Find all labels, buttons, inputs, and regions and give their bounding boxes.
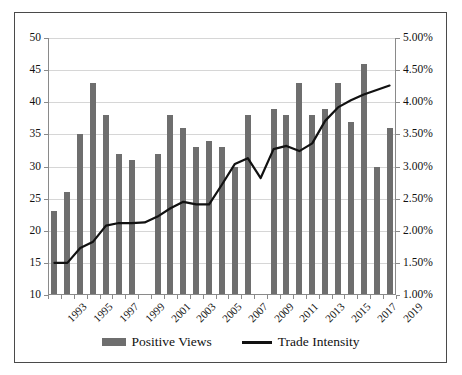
bar bbox=[283, 115, 289, 295]
y-tick-label: 10 bbox=[30, 289, 42, 301]
bar bbox=[90, 83, 96, 295]
y-tick bbox=[44, 102, 48, 103]
bar bbox=[322, 109, 328, 295]
x-tick bbox=[306, 295, 307, 299]
y2-tick-label: 4.00% bbox=[403, 97, 433, 109]
x-tick bbox=[112, 295, 113, 299]
x-tick bbox=[216, 295, 217, 299]
legend-label-positive-views: Positive Views bbox=[132, 334, 212, 350]
y-axis-left bbox=[48, 38, 49, 295]
y2-tick-label: 5.00% bbox=[403, 32, 433, 44]
bar bbox=[335, 83, 341, 295]
x-tick-label: 2003 bbox=[195, 301, 218, 324]
y2-tick-label: 4.50% bbox=[403, 64, 433, 76]
x-tick-label: 2019 bbox=[401, 301, 424, 324]
x-tick-label: 2001 bbox=[169, 301, 192, 324]
x-tick bbox=[190, 295, 191, 299]
x-tick bbox=[241, 295, 242, 299]
y-tick-label: 35 bbox=[30, 129, 42, 141]
bar bbox=[245, 115, 251, 295]
x-tick bbox=[332, 295, 333, 299]
y2-tick bbox=[396, 263, 400, 264]
bar bbox=[374, 167, 380, 296]
x-tick-label: 2007 bbox=[246, 301, 269, 324]
y-tick bbox=[44, 199, 48, 200]
y-tick-label: 50 bbox=[30, 32, 42, 44]
bar bbox=[206, 141, 212, 295]
y2-tick bbox=[396, 167, 400, 168]
legend-label-trade-intensity: Trade Intensity bbox=[278, 334, 360, 350]
bar bbox=[77, 134, 83, 295]
y2-tick bbox=[396, 102, 400, 103]
x-tick-label: 2013 bbox=[324, 301, 347, 324]
y2-tick-label: 1.50% bbox=[403, 257, 433, 269]
y2-tick-label: 1.00% bbox=[403, 289, 433, 301]
y2-tick bbox=[396, 70, 400, 71]
bar bbox=[361, 64, 367, 295]
x-tick bbox=[61, 295, 62, 299]
y2-tick bbox=[396, 199, 400, 200]
bar bbox=[348, 122, 354, 295]
y-tick-label: 15 bbox=[30, 257, 42, 269]
x-tick bbox=[370, 295, 371, 299]
bar bbox=[180, 128, 186, 295]
y-tick-label: 25 bbox=[30, 193, 42, 205]
legend-item-trade-intensity: Trade Intensity bbox=[242, 334, 360, 350]
chart-frame: 101520253035404550 1.00%1.50%2.00%2.50%3… bbox=[14, 12, 447, 363]
y2-tick-label: 2.00% bbox=[403, 225, 433, 237]
bar bbox=[193, 147, 199, 295]
y2-tick-label: 3.00% bbox=[403, 161, 433, 173]
bar-swatch-icon bbox=[102, 338, 126, 346]
x-tick bbox=[100, 295, 101, 299]
x-tick bbox=[383, 295, 384, 299]
bar bbox=[103, 115, 109, 295]
bar bbox=[296, 83, 302, 295]
y2-tick-label: 2.50% bbox=[403, 193, 433, 205]
bar bbox=[387, 128, 393, 295]
chart-legend: Positive Views Trade Intensity bbox=[15, 334, 446, 350]
y2-tick-label: 3.50% bbox=[403, 129, 433, 141]
plot-area: 101520253035404550 1.00%1.50%2.00%2.50%3… bbox=[48, 38, 396, 295]
y-tick bbox=[44, 38, 48, 39]
y-tick-label: 30 bbox=[30, 161, 42, 173]
x-tick bbox=[319, 295, 320, 299]
x-tick bbox=[87, 295, 88, 299]
x-tick-label: 1997 bbox=[117, 301, 140, 324]
x-tick bbox=[228, 295, 229, 299]
y-tick bbox=[44, 134, 48, 135]
x-tick bbox=[344, 295, 345, 299]
x-tick bbox=[74, 295, 75, 299]
y2-tick bbox=[396, 38, 400, 39]
y-tick-label: 20 bbox=[30, 225, 42, 237]
x-tick-label: 1995 bbox=[92, 301, 115, 324]
x-tick bbox=[357, 295, 358, 299]
x-tick bbox=[396, 295, 397, 299]
x-tick bbox=[151, 295, 152, 299]
x-tick-label: 2005 bbox=[221, 301, 244, 324]
y-tick bbox=[44, 263, 48, 264]
line-swatch-icon bbox=[242, 341, 272, 344]
x-tick-label: 2011 bbox=[298, 301, 321, 324]
x-tick bbox=[177, 295, 178, 299]
x-tick bbox=[138, 295, 139, 299]
x-tick-label: 2009 bbox=[272, 301, 295, 324]
y2-tick bbox=[396, 231, 400, 232]
y-tick-label: 40 bbox=[30, 97, 42, 109]
y-tick-label: 45 bbox=[30, 64, 42, 76]
x-tick bbox=[164, 295, 165, 299]
gridline bbox=[48, 102, 396, 103]
x-tick-label: 1993 bbox=[66, 301, 89, 324]
x-tick bbox=[48, 295, 49, 299]
bar bbox=[51, 211, 57, 295]
bar bbox=[232, 167, 238, 296]
bar bbox=[271, 109, 277, 295]
bar bbox=[155, 154, 161, 295]
bar bbox=[309, 115, 315, 295]
x-tick-label: 2015 bbox=[349, 301, 372, 324]
x-tick bbox=[125, 295, 126, 299]
gridline bbox=[48, 38, 396, 39]
x-tick bbox=[293, 295, 294, 299]
gridline bbox=[48, 134, 396, 135]
bar bbox=[64, 192, 70, 295]
bar bbox=[167, 115, 173, 295]
